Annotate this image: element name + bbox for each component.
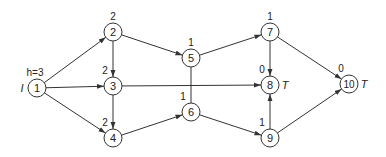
node-label: 1 <box>34 82 40 94</box>
node-8: 80T <box>259 64 289 94</box>
node-value: 2 <box>110 11 116 22</box>
terminal-marker: T <box>361 78 369 90</box>
node-1: 1h=3I <box>20 67 46 97</box>
node-9: 91 <box>259 117 279 147</box>
node-label: 2 <box>110 26 116 38</box>
node-value: h=3 <box>27 67 44 78</box>
node-value: 1 <box>267 11 273 22</box>
terminal-marker: T <box>282 79 290 91</box>
node-value: 0 <box>259 64 265 75</box>
node-label: 8 <box>267 79 273 91</box>
node-5: 51 <box>182 37 200 67</box>
node-value: 0 <box>338 63 344 74</box>
edge-4-to-6 <box>122 115 183 135</box>
node-value: 2 <box>102 117 108 128</box>
node-label: 9 <box>267 132 273 144</box>
source-marker: I <box>20 82 23 94</box>
node-10: 100T <box>338 63 368 93</box>
node-value: 2 <box>102 65 108 76</box>
edge-9-to-10 <box>277 89 341 133</box>
node-7: 71 <box>261 11 279 41</box>
edge-1-to-4 <box>45 93 106 133</box>
node-label: 10 <box>343 79 355 90</box>
edge-6-to-9 <box>200 115 262 135</box>
node-label: 7 <box>267 26 273 38</box>
node-2: 22 <box>104 11 122 41</box>
node-label: 3 <box>110 80 116 92</box>
edge-1-to-3 <box>46 86 104 88</box>
network-diagram: 1h=3I22324251617180T91100T <box>0 0 386 157</box>
node-value: 1 <box>259 117 265 128</box>
edge-5-to-7 <box>200 35 262 55</box>
edge-1-to-2 <box>44 37 106 82</box>
node-6: 61 <box>180 91 200 121</box>
edge-2-to-5 <box>122 35 183 55</box>
node-value: 1 <box>188 37 194 48</box>
node-4: 42 <box>102 117 122 147</box>
nodes-layer: 1h=3I22324251617180T91100T <box>20 11 368 147</box>
node-label: 6 <box>188 106 194 118</box>
node-label: 4 <box>110 132 116 144</box>
node-value: 1 <box>180 91 186 102</box>
edge-7-to-10 <box>278 37 342 79</box>
network-diagram-svg: 1h=3I22324251617180T91100T <box>0 0 386 157</box>
node-3: 32 <box>102 65 122 95</box>
node-label: 5 <box>188 52 194 64</box>
